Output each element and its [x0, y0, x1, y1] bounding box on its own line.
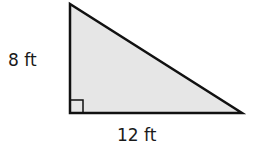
vertical-leg-label: 8 ft	[8, 50, 37, 70]
horizontal-leg-label: 12 ft	[117, 125, 156, 145]
right-triangle	[70, 4, 242, 113]
